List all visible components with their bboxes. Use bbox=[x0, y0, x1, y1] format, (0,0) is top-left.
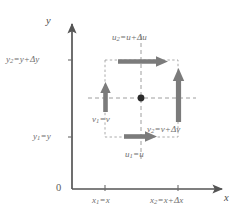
origin-label: 0 bbox=[56, 183, 61, 194]
x-axis-label: x bbox=[224, 193, 229, 204]
flux-label-v1: v1=v bbox=[92, 115, 110, 125]
y-tick-label-y1: y1=y bbox=[33, 132, 51, 142]
element-center-dot bbox=[138, 95, 145, 102]
y-tick-label-y2: y2=y+Δy bbox=[6, 55, 39, 65]
x-axis-ticks bbox=[105, 185, 178, 191]
arrow-u2-icon bbox=[118, 56, 168, 67]
flux-label-v2: v2=v+Δv bbox=[147, 125, 180, 135]
flux-label-u1: u1=u bbox=[125, 150, 144, 160]
arrow-v2-icon bbox=[173, 68, 184, 122]
y-axis-label: y bbox=[46, 16, 51, 27]
x-tick-label-x2: x2=x+Δx bbox=[150, 196, 183, 206]
velocity-element-diagram: y x 0 y2=y+Δy y1=y x1=x x2=x+Δx u2=u+Δu … bbox=[0, 0, 240, 219]
x-tick-label-x1: x1=x bbox=[92, 196, 110, 206]
flux-label-u2: u2=u+Δu bbox=[112, 33, 147, 43]
arrow-v1-icon bbox=[100, 82, 110, 112]
